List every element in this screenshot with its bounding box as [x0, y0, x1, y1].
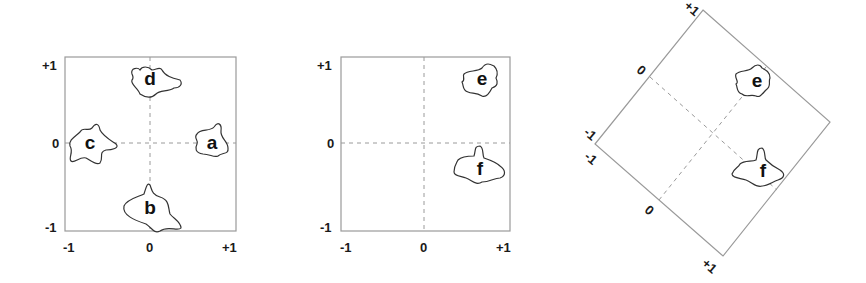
panel-right-tick-lower-zero: 0 [642, 202, 657, 218]
panel-right-tick-top-plus1: +1 [681, 0, 702, 19]
panel-left-ytick-top: +1 [42, 58, 57, 73]
panel-middle-ytick-top: +1 [317, 58, 332, 73]
panel-right-tick-upper-zero: 0 [634, 62, 649, 78]
panel-middle-ytick-mid: 0 [327, 136, 334, 151]
cluster-b-label: b [144, 197, 156, 218]
panel-middle-xtick-mid: 0 [420, 240, 427, 255]
panel-right-tick-bottom-plus1: +1 [699, 255, 720, 276]
cluster-a-label: a [207, 132, 218, 153]
cluster-f-rotated-label: f [760, 160, 767, 181]
cluster-f-label: f [477, 158, 484, 179]
panel-middle-xtick-right: +1 [496, 240, 511, 255]
cluster-d-label: d [144, 68, 156, 89]
panel-right-rotated: e f +1 0 -1 -1 0 +1 [581, 0, 830, 276]
cluster-e-rotated-label: e [752, 70, 763, 91]
cluster-e-label: e [477, 68, 488, 89]
diagram-canvas: a b c d +1 0 -1 -1 0 +1 e f +1 0 -1 -1 0… [0, 0, 866, 283]
panel-middle-xtick-left: -1 [340, 240, 352, 255]
panel-middle-ytick-bottom: -1 [320, 220, 332, 235]
panel-left-xtick-right: +1 [222, 240, 237, 255]
cluster-d-blob [132, 67, 181, 97]
cluster-c-label: c [85, 132, 96, 153]
panel-left-xtick-mid: 0 [146, 240, 153, 255]
panel-right-tick-left-minus1-b: -1 [582, 149, 600, 168]
panel-left-ytick-bottom: -1 [45, 220, 57, 235]
panel-left: a b c d +1 0 -1 -1 0 +1 [42, 57, 237, 255]
panel-left-ytick-mid: 0 [52, 136, 59, 151]
cluster-f-rotated-blob [732, 148, 784, 186]
panel-right-tick-left-minus1-a: -1 [581, 124, 599, 143]
panel-left-xtick-left: -1 [63, 240, 75, 255]
panel-middle: e f +1 0 -1 -1 0 +1 [317, 57, 511, 255]
